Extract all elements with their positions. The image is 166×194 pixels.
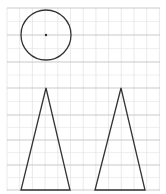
grid	[7, 8, 160, 191]
triangle-left	[21, 88, 70, 190]
circle-center-dot	[45, 34, 47, 36]
triangle-right	[95, 88, 145, 190]
diagram-canvas	[0, 0, 166, 194]
